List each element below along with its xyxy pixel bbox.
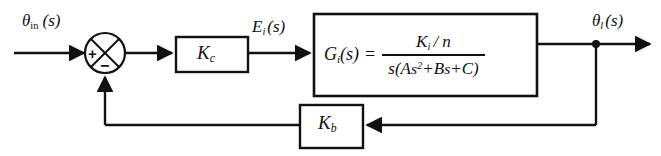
block-diagram: + − θin(s) Ei(s) θl(s) Kc Kb Gi(s)= Ki/ … — [0, 0, 661, 156]
input-signal-label: θin(s) — [22, 12, 61, 31]
plant-numerator-rest: / n — [430, 32, 450, 51]
plant-denominator-plus1: +B — [422, 59, 444, 78]
plant-numerator: Ki/ n — [410, 32, 457, 54]
input-signal-argument: (s) — [39, 11, 61, 30]
plant-lhs-base: G — [324, 44, 337, 64]
plant-numerator-base: K — [416, 32, 427, 51]
feedback-gain-base: K — [318, 112, 331, 133]
summing-junction-minus-sign: − — [100, 58, 109, 74]
plant-denominator: s(As2+Bs+C) — [382, 56, 484, 79]
error-signal-label: Ei(s) — [252, 18, 285, 37]
controller-gain-base: K — [197, 42, 210, 63]
output-signal-argument: (s) — [603, 11, 623, 30]
plant-transfer-function: Gi(s)= Ki/ n s(As2+Bs+C) — [324, 22, 530, 88]
plant-denominator-lead: s(A — [388, 59, 411, 78]
plant-denominator-close: ) — [473, 59, 479, 78]
plant-equals-sign: = — [359, 44, 375, 64]
plant-denominator-plus2: +C — [450, 59, 473, 78]
plant-lhs-argument: (s) — [340, 44, 359, 64]
controller-gain-subscript: c — [210, 52, 215, 65]
output-signal-label: θl(s) — [592, 12, 623, 31]
feedback-block-label: Kb — [318, 113, 337, 135]
error-signal-base: E — [252, 17, 262, 36]
summing-junction-plus-sign: + — [88, 46, 97, 61]
input-signal-subscript: in — [30, 20, 38, 31]
plant-transfer-function-fraction: Ki/ n s(As2+Bs+C) — [382, 32, 484, 79]
error-signal-argument: (s) — [265, 17, 285, 36]
feedback-gain-subscript: b — [331, 122, 337, 135]
controller-block-label: Kc — [197, 43, 215, 65]
plant-transfer-function-lhs: Gi(s)= — [324, 44, 382, 65]
